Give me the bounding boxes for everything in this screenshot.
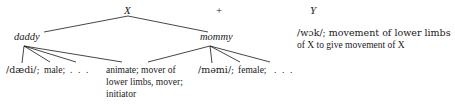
node-mommy: mommy (200, 31, 233, 43)
node-y: Y (310, 4, 316, 16)
leaf-daddy-phonetic: /dædi/; (6, 65, 40, 76)
leaf-mommy-female: female; (238, 65, 266, 76)
branch-daddy-to-ellipsis (24, 46, 76, 62)
shared-feature-line-3: initiator (106, 89, 136, 100)
branch-x-to-mommy (128, 16, 208, 32)
y-gloss-line-1: /wɔk/; movement of lower limbs (297, 28, 451, 39)
tree-branch-lines (0, 0, 455, 106)
branch-daddy-to-phonetic (22, 46, 24, 63)
shared-feature-line-1: animate; mover of (106, 65, 176, 76)
feature-tree-figure: X + Y daddy mommy /dædi/; male; . . . an… (0, 0, 455, 106)
shared-feature-line-2: lower limbs, mover; (106, 77, 183, 88)
leaf-daddy-male: male; (44, 65, 65, 76)
branch-mommy-to-female (210, 46, 240, 62)
branch-mommy-to-shared-block (148, 46, 210, 62)
node-daddy: daddy (14, 31, 40, 43)
leaf-mommy-phonetic: /məmi/; (198, 65, 234, 76)
branch-x-to-daddy (44, 16, 128, 32)
y-gloss-line-2: of X to give movement of X (297, 40, 405, 51)
branch-mommy-to-ellipsis (210, 46, 270, 62)
leaf-daddy-ellipsis: . . . (70, 65, 90, 76)
branch-daddy-to-shared-block (24, 46, 122, 62)
operator-plus: + (216, 4, 222, 16)
node-x: X (124, 4, 131, 16)
branch-mommy-to-phonetic (210, 46, 212, 63)
leaf-mommy-ellipsis: . . . (274, 65, 294, 76)
